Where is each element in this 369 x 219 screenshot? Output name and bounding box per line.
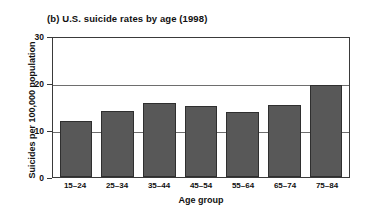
bar-slot (305, 38, 347, 177)
bar-slot (264, 38, 306, 177)
bar-slot (138, 38, 180, 177)
bar-15–24[interactable] (60, 121, 93, 177)
bar-35–44[interactable] (143, 103, 176, 177)
x-tick-label-65–74: 65–74 (264, 181, 306, 190)
bar-slot (180, 38, 222, 177)
plot-area (52, 37, 350, 178)
y-axis-title: Suicides per 100,000 population (27, 30, 37, 190)
bar-slot (55, 38, 97, 177)
y-tick-label-0: 0 (20, 173, 44, 183)
bar-series (53, 38, 349, 177)
y-tick-label-10: 10 (20, 126, 44, 136)
bar-75–84[interactable] (310, 85, 343, 177)
y-tick-label-30: 30 (20, 32, 44, 42)
bar-65–74[interactable] (268, 105, 301, 177)
bar-55–64[interactable] (226, 112, 259, 177)
x-tick-label-45–54: 45–54 (180, 181, 222, 190)
x-axis-title: Age group (52, 195, 350, 205)
y-tick-label-20: 20 (20, 79, 44, 89)
x-tick-label-15–24: 15–24 (54, 181, 96, 190)
bar-45–54[interactable] (185, 106, 218, 177)
chart-figure: (b) U.S. suicide rates by age (1998) Sui… (0, 0, 369, 219)
bar-25–34[interactable] (101, 111, 134, 177)
x-tick-label-25–34: 25–34 (96, 181, 138, 190)
x-tick-label-75–84: 75–84 (306, 181, 348, 190)
x-tick-label-35–44: 35–44 (138, 181, 180, 190)
x-axis-tick-labels: 15–2425–3435–4445–5455–6465–7475–84 (52, 181, 350, 190)
bar-slot (97, 38, 139, 177)
chart-title: (b) U.S. suicide rates by age (1998) (47, 13, 207, 24)
bar-slot (222, 38, 264, 177)
x-tick-label-55–64: 55–64 (222, 181, 264, 190)
y-tick-mark-0 (47, 178, 52, 179)
